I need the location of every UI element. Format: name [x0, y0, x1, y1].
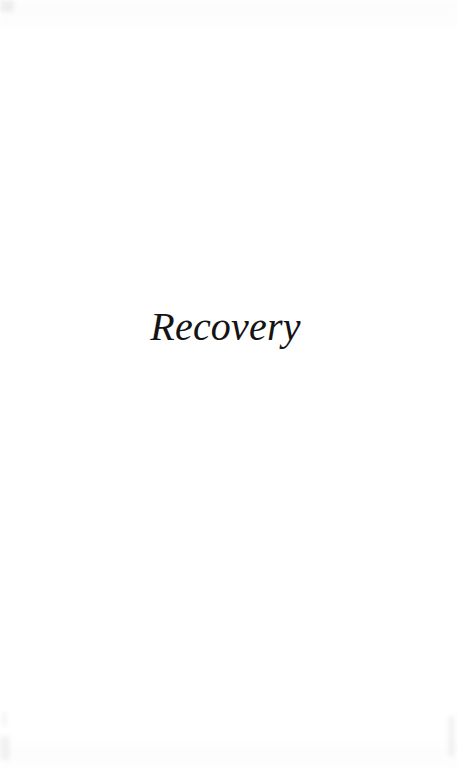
scan-streak-bottom-right — [448, 716, 455, 756]
scan-tone-band-top — [0, 0, 458, 26]
scanned-page: Recovery — [0, 0, 458, 768]
page-title: Recovery — [150, 303, 300, 351]
scan-streak-bottom-left — [2, 712, 7, 726]
part-title-block: Recovery — [0, 303, 458, 351]
scan-smudge-bottom-left — [0, 736, 10, 760]
scan-tone-band-bottom — [0, 744, 458, 768]
scan-smudge-top-left — [0, 0, 14, 12]
